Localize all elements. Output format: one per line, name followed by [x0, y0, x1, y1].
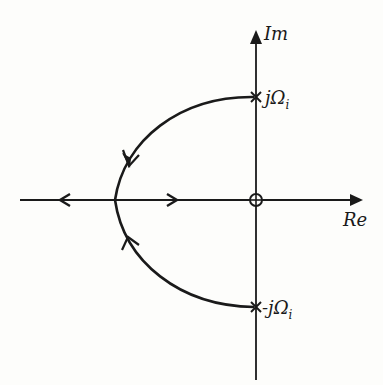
imaginary-axis-arrow-icon [250, 30, 262, 44]
pole-upper-label: jΩi [261, 87, 290, 112]
pole-lower-label-main: -jΩ [262, 297, 289, 318]
imag-axis-label: Im [263, 23, 288, 44]
root-locus-svg: Im Re jΩi -jΩi [0, 0, 383, 385]
real-axis-label: Re [342, 209, 367, 230]
locus-arc [115, 97, 254, 307]
pole-lower-label: -jΩi [262, 297, 293, 322]
root-locus-diagram: Im Re jΩi -jΩi [0, 0, 383, 385]
pole-upper-label-main: jΩ [261, 87, 286, 108]
real-axis-arrow-icon [350, 194, 363, 206]
pole-upper-label-sub: i [286, 98, 290, 112]
pole-lower-label-sub: i [289, 308, 293, 322]
